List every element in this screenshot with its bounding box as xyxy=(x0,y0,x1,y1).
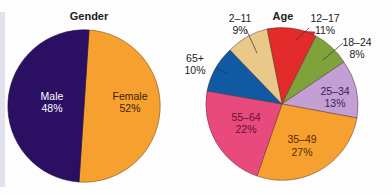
male-pct: 48% xyxy=(41,102,62,114)
pct-18-24: 8% xyxy=(349,48,364,60)
gender-pie: Gender Male 48% Female 52% xyxy=(8,10,160,182)
female-label: Female xyxy=(112,90,147,102)
label-2-11: 2–11 xyxy=(229,12,252,24)
pct-2-11: 9% xyxy=(232,24,247,36)
label-12-17: 12–17 xyxy=(310,12,339,24)
pct-55-64: 22% xyxy=(235,123,256,135)
label-35-49: 35–49 xyxy=(287,133,316,145)
label-18-24: 18–24 xyxy=(342,36,371,48)
pct-35-49: 27% xyxy=(291,146,312,158)
age-title: Age xyxy=(273,10,294,22)
pct-25-34: 13% xyxy=(324,97,345,109)
label-25-34: 25–34 xyxy=(320,85,349,97)
female-pct: 52% xyxy=(119,102,140,114)
label-55-64: 55–64 xyxy=(231,111,260,123)
pct-12-17: 11% xyxy=(315,24,335,36)
male-label: Male xyxy=(41,90,64,102)
pct-65-plus: 10% xyxy=(184,64,205,76)
charts: Gender Male 48% Female 52% Age 2–11 9% 1… xyxy=(0,0,392,195)
gender-title: Gender xyxy=(70,10,109,22)
label-65-plus: 65+ xyxy=(186,52,204,64)
